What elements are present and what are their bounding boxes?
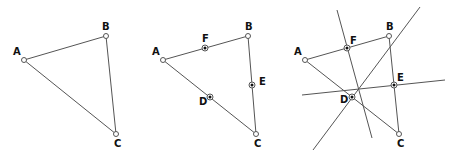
vertex-C-point [114, 132, 119, 137]
vertex-label: C [114, 138, 121, 149]
vertex-A-point [22, 58, 27, 63]
panel-triangle: ABC [13, 21, 121, 149]
midpoint-E-dot [393, 84, 396, 87]
vertex-label: B [102, 21, 110, 32]
vertex-label: C [397, 138, 404, 149]
vertex-B-point [387, 34, 392, 39]
triangle-outline [24, 36, 116, 134]
vertex-label: A [152, 46, 160, 57]
vertex-A-point [303, 58, 308, 63]
midpoint-label: D [199, 96, 207, 107]
midpoint-D-dot [351, 96, 354, 99]
vertex-C-point [397, 132, 402, 137]
vertex-B-point [246, 34, 251, 39]
midpoint-label: F [202, 33, 209, 44]
midpoint-D-dot [209, 96, 212, 99]
bisector-through-F-line [337, 10, 372, 138]
midpoint-label: E [259, 76, 266, 87]
panel-perpendicular-bisectors: FEDABC [294, 7, 445, 150]
vertex-label: C [254, 138, 261, 149]
bisector-through-E-line [302, 80, 445, 95]
vertex-A-point [161, 58, 166, 63]
vertex-C-point [254, 132, 259, 137]
panel-midpoints: FEDABC [152, 21, 266, 149]
triangle-outline [305, 36, 399, 134]
triangle-outline [163, 36, 256, 134]
vertex-B-point [104, 34, 109, 39]
vertex-label: A [13, 46, 21, 57]
midpoint-E-dot [251, 84, 254, 87]
triangle-perpendicular-bisector-diagram: ABC FEDABC FEDABC [0, 0, 455, 158]
midpoint-label: E [397, 72, 404, 83]
vertex-label: B [245, 21, 253, 32]
vertex-label: B [386, 21, 394, 32]
midpoint-F-dot [346, 47, 349, 50]
vertex-label: A [294, 46, 302, 57]
midpoint-F-dot [204, 47, 207, 50]
midpoint-label: D [340, 94, 348, 105]
midpoint-label: F [350, 35, 357, 46]
